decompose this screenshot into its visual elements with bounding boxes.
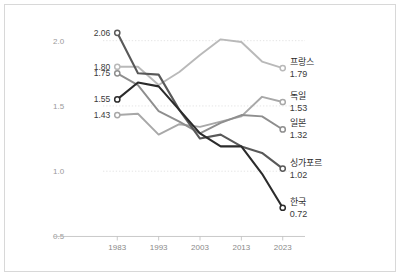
start-value-label: 1.43 <box>94 110 111 120</box>
series-start-marker-싱가포르 <box>115 30 120 35</box>
series-end-marker-일본 <box>280 127 285 132</box>
start-value-label: 1.75 <box>94 68 111 78</box>
series-end-value-일본: 1.32 <box>290 130 308 140</box>
series-end-value-프랑스: 1.79 <box>290 69 308 79</box>
series-end-marker-독일 <box>280 99 285 104</box>
x-tick-label: 2023 <box>274 243 292 252</box>
series-end-marker-싱가포르 <box>280 166 285 171</box>
series-end-marker-프랑스 <box>280 65 285 70</box>
series-label-일본: 일본 <box>290 118 306 128</box>
start-value-label: 2.06 <box>94 28 111 38</box>
start-value-label: 1.55 <box>94 94 111 104</box>
series-markers <box>115 30 286 210</box>
series-end-marker-한국 <box>280 205 285 210</box>
series-end-value-한국: 0.72 <box>290 209 308 219</box>
series-start-marker-독일 <box>115 112 120 117</box>
series-line-프랑스 <box>117 39 282 85</box>
y-tick-label: 1.5 <box>53 102 65 111</box>
line-chart: 0.51.01.52.0 19831993200320132023 2.061.… <box>5 5 397 273</box>
series-start-marker-일본 <box>115 71 120 76</box>
gridlines <box>103 41 305 172</box>
start-value-labels: 2.061.801.751.551.43 <box>94 28 111 120</box>
series-end-labels: 프랑스1.79독일1.53일본1.32싱가포르1.02한국0.72 <box>290 56 322 219</box>
x-axis-tick-labels: 19831993200320132023 <box>108 243 292 252</box>
series-label-프랑스: 프랑스 <box>290 56 314 67</box>
y-tick-label: 1.0 <box>53 167 65 176</box>
x-tick-label: 1993 <box>150 243 168 252</box>
x-tick-label: 1983 <box>108 243 126 252</box>
x-axis <box>53 236 305 240</box>
y-tick-label: 2.0 <box>53 37 65 46</box>
series-label-한국: 한국 <box>290 197 306 207</box>
y-tick-label: 0.5 <box>53 232 65 241</box>
series-lines <box>117 33 282 208</box>
y-axis-tick-labels: 0.51.01.52.0 <box>53 37 65 242</box>
series-end-value-싱가포르: 1.02 <box>290 170 308 180</box>
x-tick-label: 2003 <box>191 243 209 252</box>
series-label-싱가포르: 싱가포르 <box>290 158 322 168</box>
chart-frame: 0.51.01.52.0 19831993200320132023 2.061.… <box>4 4 396 272</box>
series-start-marker-한국 <box>115 97 120 102</box>
series-start-marker-프랑스 <box>115 64 120 69</box>
series-label-독일: 독일 <box>290 91 306 101</box>
series-end-value-독일: 1.53 <box>290 103 308 113</box>
x-tick-label: 2013 <box>232 243 250 252</box>
